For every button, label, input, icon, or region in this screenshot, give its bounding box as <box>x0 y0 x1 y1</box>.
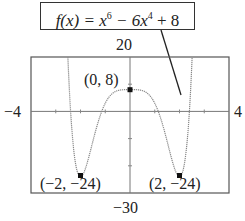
point-max-0-8 <box>128 87 133 92</box>
point-label-min-right: (2, −24) <box>149 176 201 192</box>
callout-pointer-line <box>161 30 181 95</box>
point-label-max: (0, 8) <box>84 72 119 88</box>
graph-canvas <box>0 0 245 221</box>
point-label-min-left: (−2, −24) <box>40 176 101 192</box>
